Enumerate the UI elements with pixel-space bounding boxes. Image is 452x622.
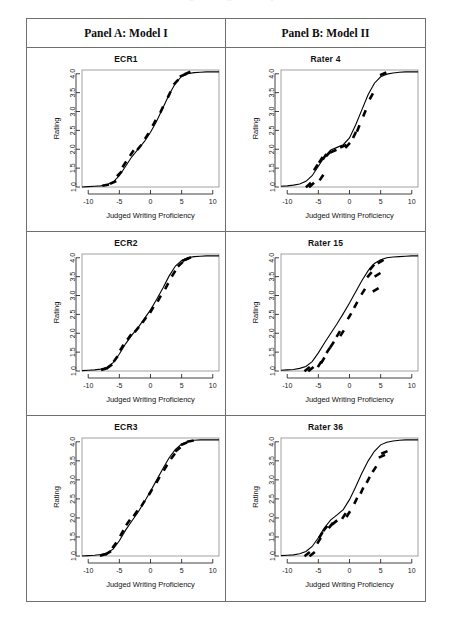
svg-text:5: 5: [379, 567, 383, 574]
svg-text:5: 5: [379, 198, 383, 205]
svg-text:1.0: 1.0: [269, 182, 276, 192]
svg-text:0: 0: [149, 382, 153, 389]
svg-text:10: 10: [209, 567, 217, 574]
svg-text:5: 5: [180, 198, 184, 205]
svg-text:4.0: 4.0: [70, 437, 77, 447]
svg-text:-10: -10: [83, 382, 93, 389]
svg-text:4.0: 4.0: [269, 253, 276, 263]
plot-rater4: 1.01.52.02.53.03.54.0Rating-10-50510Judg…: [226, 48, 426, 232]
plot-rater15: 1.01.52.02.53.03.54.0Rating-10-50510Judg…: [226, 232, 426, 416]
svg-text:-10: -10: [83, 567, 93, 574]
svg-text:2.0: 2.0: [269, 328, 276, 338]
plot-ecr1: 1.01.52.02.53.03.54.0Rating-10-50510Judg…: [27, 48, 227, 232]
svg-text:2.5: 2.5: [70, 494, 77, 504]
chart-cell-rater36: Rater 36 1.01.52.02.53.03.54.0Rating-10-…: [226, 416, 425, 601]
svg-text:3.5: 3.5: [269, 272, 276, 282]
svg-text:Rating: Rating: [52, 302, 61, 324]
svg-text:4.0: 4.0: [269, 69, 276, 79]
svg-text:2.5: 2.5: [269, 494, 276, 504]
svg-text:1.0: 1.0: [70, 366, 77, 376]
chart-row-3: ECR3 1.01.52.02.53.03.54.0Rating-10-5051…: [27, 416, 425, 601]
plot-ecr2: 1.01.52.02.53.03.54.0Rating-10-50510Judg…: [27, 232, 227, 416]
svg-text:-5: -5: [315, 567, 321, 574]
svg-text:1.5: 1.5: [70, 163, 77, 173]
svg-text:4.0: 4.0: [70, 69, 77, 79]
panel-header-row: Panel A: Model I Panel B: Model II: [27, 19, 425, 48]
plot-ecr3: 1.01.52.02.53.03.54.0Rating-10-50510Judg…: [27, 416, 227, 601]
svg-text:2.0: 2.0: [269, 144, 276, 154]
svg-text:Rating: Rating: [251, 486, 260, 508]
svg-text:10: 10: [408, 382, 416, 389]
svg-text:-10: -10: [282, 198, 292, 205]
svg-text:0: 0: [348, 198, 352, 205]
svg-text:1.5: 1.5: [269, 163, 276, 173]
svg-text:1.5: 1.5: [70, 532, 77, 542]
svg-text:1.0: 1.0: [70, 551, 77, 561]
chart-row-2: ECR2 1.01.52.02.53.03.54.0Rating-10-5051…: [27, 232, 425, 416]
chart-cell-ecr2: ECR2 1.01.52.02.53.03.54.0Rating-10-5051…: [27, 232, 226, 415]
svg-text:-10: -10: [282, 382, 292, 389]
svg-text:2.5: 2.5: [269, 309, 276, 319]
svg-text:0: 0: [348, 382, 352, 389]
svg-text:5: 5: [379, 382, 383, 389]
svg-text:2.5: 2.5: [70, 125, 77, 135]
svg-text:2.0: 2.0: [70, 328, 77, 338]
plot-rater36: 1.01.52.02.53.03.54.0Rating-10-50510Judg…: [226, 416, 426, 601]
svg-text:3.5: 3.5: [70, 88, 77, 98]
svg-text:Rating: Rating: [52, 118, 61, 140]
svg-text:3.0: 3.0: [70, 475, 77, 485]
chart-cell-ecr3: ECR3 1.01.52.02.53.03.54.0Rating-10-5051…: [27, 416, 226, 601]
svg-text:2.0: 2.0: [269, 513, 276, 523]
svg-text:Rating: Rating: [251, 302, 260, 324]
svg-text:Judged Writing Proficiency: Judged Writing Proficiency: [305, 395, 394, 404]
svg-text:Judged Writing Proficiency: Judged Writing Proficiency: [106, 211, 195, 220]
svg-text:-5: -5: [315, 198, 321, 205]
svg-text:10: 10: [408, 198, 416, 205]
svg-text:Judged Writing Proficiency: Judged Writing Proficiency: [305, 580, 394, 589]
svg-text:3.0: 3.0: [269, 475, 276, 485]
svg-text:1.5: 1.5: [269, 532, 276, 542]
svg-text:Judged Writing Proficiency: Judged Writing Proficiency: [106, 395, 195, 404]
svg-text:3.5: 3.5: [269, 88, 276, 98]
svg-text:1.0: 1.0: [70, 182, 77, 192]
svg-text:3.5: 3.5: [70, 272, 77, 282]
svg-text:-10: -10: [282, 567, 292, 574]
svg-text:3.0: 3.0: [70, 291, 77, 301]
svg-text:0: 0: [348, 567, 352, 574]
svg-text:3.0: 3.0: [70, 107, 77, 117]
svg-text:10: 10: [408, 567, 416, 574]
figure-table: Panel A: Model I Panel B: Model II ECR1 …: [26, 18, 426, 602]
svg-text:2.0: 2.0: [70, 144, 77, 154]
svg-text:-5: -5: [116, 567, 122, 574]
svg-text:-5: -5: [315, 382, 321, 389]
svg-text:2.0: 2.0: [70, 513, 77, 523]
svg-text:10: 10: [209, 382, 217, 389]
chart-cell-rater4: Rater 4 1.01.52.02.53.03.54.0Rating-10-5…: [226, 48, 425, 231]
svg-text:Rating: Rating: [251, 118, 260, 140]
chart-row-1: ECR1 1.01.52.02.53.03.54.0Rating-10-5051…: [27, 48, 425, 232]
panel-header-a: Panel A: Model I: [27, 19, 226, 47]
svg-text:Judged Writing Proficiency: Judged Writing Proficiency: [106, 580, 195, 589]
svg-text:1.5: 1.5: [70, 347, 77, 357]
svg-text:4.0: 4.0: [70, 253, 77, 263]
svg-text:3.5: 3.5: [70, 456, 77, 466]
svg-text:2.5: 2.5: [70, 309, 77, 319]
svg-text:4.0: 4.0: [269, 437, 276, 447]
svg-text:1.0: 1.0: [269, 551, 276, 561]
svg-text:-5: -5: [116, 198, 122, 205]
chart-cell-ecr1: ECR1 1.01.52.02.53.03.54.0Rating-10-5051…: [27, 48, 226, 231]
svg-text:3.0: 3.0: [269, 291, 276, 301]
svg-text:5: 5: [180, 382, 184, 389]
svg-text:2.5: 2.5: [269, 125, 276, 135]
svg-text:1.5: 1.5: [269, 347, 276, 357]
svg-text:-10: -10: [83, 198, 93, 205]
svg-text:1.0: 1.0: [269, 366, 276, 376]
svg-text:Rating: Rating: [52, 486, 61, 508]
svg-text:3.0: 3.0: [269, 107, 276, 117]
svg-text:5: 5: [180, 567, 184, 574]
chart-cell-rater15: Rater 15 1.01.52.02.53.03.54.0Rating-10-…: [226, 232, 425, 415]
top-cutoff-caption: Judged Writing Proficiency: [0, 0, 452, 14]
svg-text:10: 10: [209, 198, 217, 205]
panel-header-b: Panel B: Model II: [226, 19, 425, 47]
svg-text:0: 0: [149, 567, 153, 574]
